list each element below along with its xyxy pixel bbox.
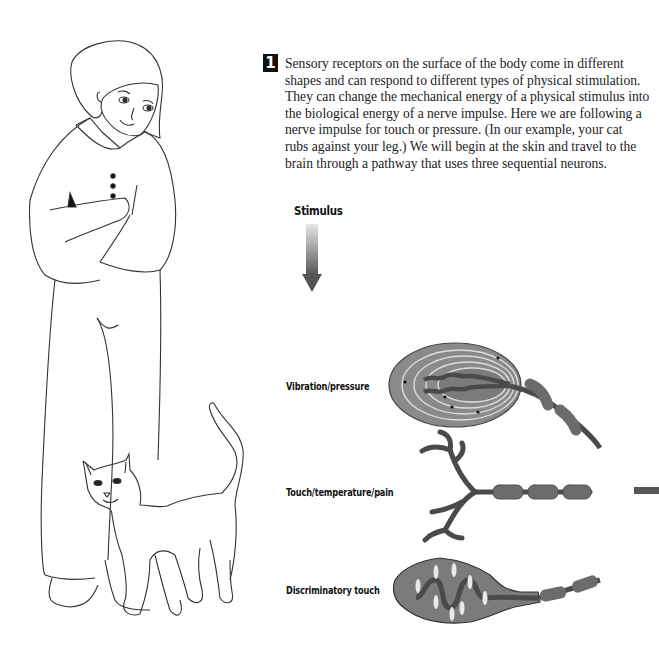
pacinian-corpuscle-icon	[389, 343, 600, 448]
paragraph-line: rubs against your leg.) We will begin at…	[285, 139, 645, 156]
intro-paragraph: Sensory receptors on the surface of the …	[285, 56, 645, 172]
paragraph-line: They can change the mechanical energy of…	[285, 89, 645, 106]
paragraph-line: the biological energy of a nerve impulse…	[285, 106, 645, 123]
receptor-label-discriminatory: Discriminatory touch	[286, 584, 380, 596]
free-nerve-ending-icon	[422, 432, 591, 540]
receptor-label-touch-temp-pain: Touch/temperature/pain	[286, 486, 394, 498]
woman-figure	[30, 41, 176, 607]
step-number-badge: 1	[263, 54, 278, 72]
stimulus-arrow-icon	[302, 224, 322, 292]
meissner-corpuscle-icon	[393, 558, 600, 623]
cat-figure	[83, 403, 243, 615]
paragraph-line: shapes and can respond to different type…	[285, 73, 645, 90]
receptor-label-vibration: Vibration/pressure	[286, 380, 369, 392]
paragraph-line: Sensory receptors on the surface of the …	[285, 56, 645, 73]
pathway-connector	[634, 487, 659, 494]
paragraph-line: brain through a pathway that uses three …	[285, 156, 645, 173]
paragraph-line: nerve impulse for touch or pressure. (In…	[285, 122, 645, 139]
stimulus-label: Stimulus	[294, 203, 343, 218]
